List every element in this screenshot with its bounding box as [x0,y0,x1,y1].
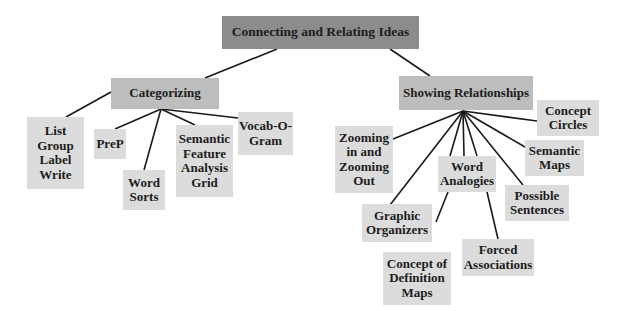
leaf-node-word-sorts: Word Sorts [123,170,165,210]
leaf-node-possible-sentences: Possible Sentences [505,185,569,221]
leaf-node-prep: PreP [94,129,126,159]
node-label: Connecting and Relating Ideas [232,25,409,40]
node-label: Concept of Definition Maps [387,257,447,301]
leaf-node-semantic-maps: Semantic Maps [525,140,584,176]
connector-line [205,49,277,78]
leaf-node-word-analogies: Word Analogies [438,156,496,192]
connector-line [390,49,430,76]
node-label: Concept Circles [545,104,591,133]
node-label: List Group Label Write [37,124,74,182]
root-node-connecting-relating-ideas: Connecting and Relating Ideas [222,16,419,49]
leaf-node-vocab-o-gram: Vocab-O- Gram [238,112,293,155]
connector-line [450,111,463,156]
connector-line [115,109,161,129]
connector-line [144,109,161,170]
leaf-node-graphic-organizers: Graphic Organizers [362,204,432,242]
branch-node-categorizing: Categorizing [111,78,219,109]
leaf-node-concept-of-definition-maps: Concept of Definition Maps [383,252,451,305]
node-label: Zooming in and Zooming Out [339,131,389,189]
leaf-node-forced-associations: Forced Associations [462,239,534,276]
leaf-node-list-group-label-write: List Group Label Write [27,117,84,189]
node-label: Graphic Organizers [366,209,428,238]
node-label: Forced Associations [464,243,533,272]
leaf-node-zooming-in-out: Zooming in and Zooming Out [335,126,393,193]
connector-line [66,92,111,117]
connector-line [161,109,238,118]
concept-map: Connecting and Relating Ideas Categorizi… [0,0,624,311]
branch-node-showing-relationships: Showing Relationships [399,76,533,110]
connector-line [463,111,464,156]
leaf-node-concept-circles: Concept Circles [537,100,599,136]
node-label: Word Sorts [128,176,160,205]
node-label: Word Analogies [440,160,494,189]
leaf-node-semantic-feature-analysis-grid: Semantic Feature Analysis Grid [176,125,233,197]
node-label: Semantic Maps [529,144,580,173]
connector-line [487,192,498,239]
node-label: Showing Relationships [403,86,529,101]
node-label: Categorizing [129,86,200,101]
connector-line [436,192,448,222]
node-label: Possible Sentences [510,189,564,218]
node-label: Vocab-O- Gram [239,119,292,148]
node-label: Semantic Feature Analysis Grid [179,132,230,190]
connector-line [463,111,537,121]
node-label: PreP [96,137,123,152]
